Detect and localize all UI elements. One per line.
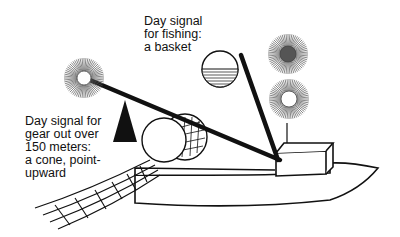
sunburst-signal-left-icon bbox=[64, 58, 104, 98]
sunburst-signal-top-dark-icon bbox=[268, 34, 308, 74]
boat-cabin bbox=[276, 143, 333, 176]
sunburst-signal-lower-icon bbox=[269, 79, 309, 119]
cone-label: Day signal for gear out over 150 meters:… bbox=[25, 115, 101, 180]
basket-day-signal-icon bbox=[202, 51, 238, 87]
basket-label: Day signal for fishing: a basket bbox=[144, 15, 202, 54]
boat-hull bbox=[135, 163, 378, 206]
cone-day-signal-icon bbox=[113, 100, 137, 142]
net-drum bbox=[142, 114, 207, 162]
